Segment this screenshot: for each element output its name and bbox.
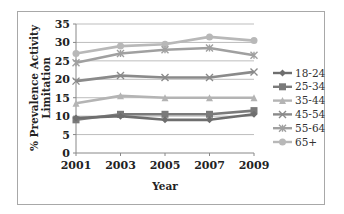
series-55-64 [73,44,258,66]
legend-label: 25-34 [295,80,326,92]
data-series [73,33,258,123]
square-marker-icon [279,83,286,90]
y-axis-title: % Prevalence Activity Limitation [28,24,52,151]
legend-item-18-24: 18-24 [273,67,326,79]
y-tick-label: 20 [55,73,71,86]
x-axis-title: Year [151,180,178,192]
y-axis-title-line2: Limitation [40,57,52,119]
x-tick-label: 2009 [239,159,270,172]
legend-item-35-44: 35-44 [273,94,326,106]
y-tick-label: 35 [55,18,70,31]
x-tick-label: 2003 [105,159,136,172]
series-65+ [73,33,258,57]
legend-label: 45-54 [295,108,326,120]
x-tick-label: 2007 [194,159,225,172]
legend-label: 18-24 [295,67,326,79]
y-axis-title-line1: % Prevalence Activity [28,24,40,151]
diamond-marker-icon [279,70,286,77]
y-tick-label: 30 [55,36,71,49]
x-axis-ticks: 20012003200520072009 [61,153,270,172]
circle-marker-icon [279,139,286,146]
circle-marker-icon [73,50,80,57]
y-tick-label: 15 [55,92,70,105]
legend: 18-2425-3435-4445-5455-6465+ [273,67,326,148]
series-45-54 [73,68,258,84]
legend-label: 65+ [295,136,317,148]
line-chart: 05101520253035 20012003200520072009 18-2… [0,0,344,214]
circle-marker-icon [251,37,258,44]
legend-item-25-34: 25-34 [273,80,326,92]
series-35-44 [73,92,258,106]
x-tick-label: 2005 [150,159,181,172]
circle-marker-icon [117,43,124,50]
legend-item-55-64: 55-64 [273,122,326,134]
legend-item-65+: 65+ [273,136,317,148]
legend-label: 35-44 [295,94,326,106]
x-tick-label: 2001 [61,159,92,172]
legend-item-45-54: 45-54 [273,108,326,120]
y-axis-ticks: 05101520253035 [55,18,76,160]
y-tick-label: 25 [55,55,70,68]
y-tick-label: 10 [55,110,71,123]
y-tick-label: 5 [62,129,70,142]
circle-marker-icon [206,33,213,40]
legend-label: 55-64 [295,122,326,134]
